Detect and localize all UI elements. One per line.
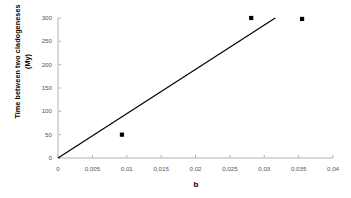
data-point-marker [120, 133, 124, 137]
y-tick-label: 50 [30, 132, 52, 138]
x-tick-label: 0,04 [313, 166, 351, 172]
y-tick-label: 250 [30, 38, 52, 44]
chart-container: Time between two cladogeneses (My) b 050… [0, 0, 351, 198]
y-tick-label: 200 [30, 62, 52, 68]
y-tick-label: 0 [30, 155, 52, 161]
y-tick-label: 150 [30, 85, 52, 91]
data-point-marker [300, 17, 304, 21]
trend-line-segment [58, 18, 275, 158]
y-tick-label: 100 [30, 108, 52, 114]
data-point-marker [249, 16, 253, 20]
trend-line [58, 18, 275, 158]
y-tick-label: 300 [30, 15, 52, 21]
data-points [120, 16, 304, 137]
axes [58, 18, 333, 158]
